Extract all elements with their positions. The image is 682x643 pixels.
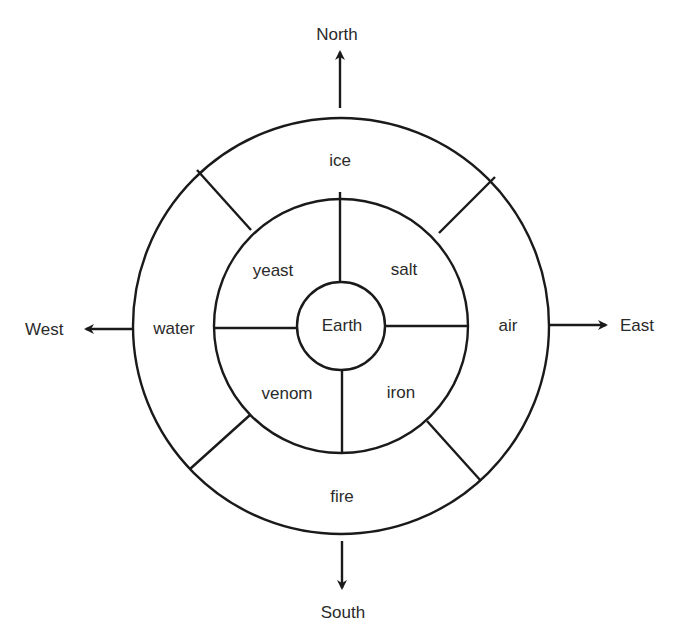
- divider-outer-ne: [439, 177, 495, 233]
- label-air: air: [499, 316, 518, 335]
- label-fire: fire: [330, 487, 354, 506]
- label-earth: Earth: [322, 316, 363, 335]
- divider-outer-se: [427, 421, 481, 481]
- divider-outer-nw: [197, 170, 251, 230]
- label-yeast: yeast: [253, 261, 294, 280]
- label-ice: ice: [329, 151, 351, 170]
- label-iron: iron: [387, 383, 415, 402]
- label-salt: salt: [391, 260, 418, 279]
- label-north: North: [316, 25, 358, 44]
- divider-outer-sw: [190, 415, 250, 469]
- label-east: East: [620, 316, 654, 335]
- label-venom: venom: [261, 384, 312, 403]
- label-west: West: [25, 320, 64, 339]
- cosmology-diagram: North South West East ice fire water air…: [0, 0, 682, 643]
- label-south: South: [321, 603, 365, 622]
- label-water: water: [152, 319, 195, 338]
